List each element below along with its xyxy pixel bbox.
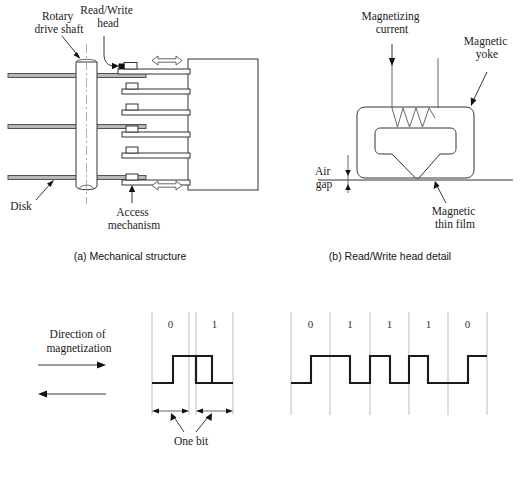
access-arm: [118, 69, 190, 74]
read-write-head-block: [124, 63, 137, 70]
read-write-head-block: [126, 83, 138, 89]
one-bit-arrowhead-left: [196, 408, 203, 413]
one-bit-dimension-left: [152, 408, 189, 413]
magnetic-yoke-line2: yoke: [476, 48, 498, 61]
magnetizing-current-arrowhead: [389, 58, 395, 66]
access-mechanism-line2: mechanism: [108, 219, 160, 231]
read-write-head-block: [126, 174, 138, 180]
magnetic-yoke-line1: Magnetic: [464, 35, 507, 48]
arrowhead-access-mechanism: [129, 185, 135, 192]
left-bit-label: 0: [168, 318, 174, 330]
one-bit-arrowhead-left: [152, 408, 159, 413]
left-waveform-chart: 0 1: [152, 312, 233, 447]
one-bit-arrowhead-right: [182, 408, 189, 413]
rotary-drive-shaft-line2: drive shaft: [35, 23, 85, 35]
read-write-head-block: [126, 126, 138, 132]
magnetic-yoke-leader: [471, 72, 487, 106]
label-air-gap: Air gap: [315, 165, 333, 191]
magnetic-thin-film-line2: thin film: [435, 218, 475, 230]
left-bit-label: 1: [212, 318, 218, 330]
right-waveform-chart: 0 1 1 1 0: [291, 312, 487, 415]
read-write-head-block: [126, 104, 138, 110]
one-bit-leader-left: [174, 417, 184, 432]
left-waveform-gridlines: [152, 312, 233, 415]
direction-arrow-left: [38, 391, 106, 398]
one-bit-leader-right-head: [206, 413, 213, 421]
read-write-head-line1: Read/Write: [80, 4, 133, 16]
right-bit-label: 0: [465, 318, 471, 330]
label-magnetizing-current: Magnetizing current: [362, 10, 423, 35]
one-bit-leaders: [171, 413, 213, 432]
right-bit-label: 1: [347, 318, 353, 330]
label-magnetic-thin-film: Magnetic thin film: [432, 205, 478, 230]
leader-read-write-head: [104, 36, 114, 66]
magnetizing-current-arrow: [389, 44, 395, 66]
magnetic-thin-film-line1: Magnetic: [432, 205, 475, 218]
motion-arrow-top: [152, 56, 182, 65]
direction-arrow-right-head: [97, 362, 106, 369]
label-magnetic-yoke: Magnetic yoke: [464, 35, 510, 61]
arrow-shape-top: [152, 56, 182, 65]
label-one-bit: One bit: [174, 435, 209, 447]
right-waveform-trace: [291, 356, 487, 383]
label-disk: Disk: [10, 200, 32, 212]
access-mechanism-line1: Access: [116, 206, 149, 218]
arrowhead-read-write-head: [112, 63, 119, 69]
access-arm: [122, 110, 190, 115]
direction-line2: magnetization: [46, 342, 111, 355]
air-gap-arrowhead-up: [345, 170, 351, 176]
label-access-mechanism: Access mechanism: [108, 206, 160, 231]
right-bit-label: 0: [308, 318, 314, 330]
read-write-head-line2: head: [97, 17, 119, 29]
disk-drive-figure: Rotary drive shaft Read/Write head Disk …: [0, 0, 523, 479]
caption-panel-b: (b) Read/Write head detail: [329, 250, 451, 262]
figure-root: Rotary drive shaft Read/Write head Disk …: [0, 0, 523, 479]
read-write-heads: [119, 63, 139, 181]
read-write-head-tip: [119, 64, 125, 70]
rotary-drive-shaft-body: [76, 44, 97, 204]
panel-a-mechanical-structure: Rotary drive shaft Read/Write head Disk …: [8, 4, 258, 262]
leader-magnetic-yoke: [473, 72, 487, 101]
left-waveform-trace: [152, 356, 233, 383]
left-waveform-trace-tail: [196, 356, 233, 383]
magnetizing-current-line1: Magnetizing: [362, 10, 420, 23]
read-write-head-block: [126, 147, 138, 153]
air-gap-line2: gap: [316, 178, 333, 191]
direction-line1: Direction of: [50, 328, 106, 340]
access-mechanism-body: [188, 59, 258, 190]
air-gap-dimension: [345, 155, 351, 193]
air-gap-arrowhead-down: [345, 184, 351, 190]
access-arm: [122, 153, 190, 158]
rotary-drive-shaft-line1: Rotary: [42, 10, 74, 23]
arrowhead-rotary-shaft: [74, 52, 81, 59]
direction-arrow-right: [38, 362, 106, 369]
left-waveform-trace-upper: [173, 356, 196, 383]
magnetic-thin-film-leader: [434, 181, 447, 203]
arrowhead-magnetic-yoke: [471, 98, 477, 107]
arrowhead-magnetic-thin-film: [434, 181, 440, 189]
motion-arrows: [152, 56, 182, 190]
panel-b-head-detail: Magnetizing current Magnetic yoke Air ga…: [315, 10, 513, 262]
label-direction-of-magnetization: Direction of magnetization: [46, 328, 111, 355]
waveform-section: Direction of magnetization 0 1: [38, 312, 487, 447]
right-bit-label: 1: [387, 318, 393, 330]
one-bit-leader-right: [196, 417, 208, 432]
label-rotary-drive-shaft: Rotary drive shaft: [35, 10, 85, 35]
magnetizing-current-wires: [392, 58, 438, 108]
one-bit-dimension-right: [196, 408, 233, 413]
label-read-write-head: Read/Write head: [80, 4, 135, 29]
access-arm: [122, 132, 190, 137]
access-arm: [122, 89, 190, 94]
air-gap-line1: Air: [315, 165, 331, 177]
magnetizing-current-line2: current: [376, 23, 409, 35]
direction-arrow-left-head: [38, 391, 47, 398]
one-bit-arrowhead-right: [226, 408, 233, 413]
caption-panel-a: (a) Mechanical structure: [74, 250, 187, 262]
right-bit-label: 1: [426, 318, 432, 330]
leader-magnetic-thin-film: [437, 186, 446, 203]
